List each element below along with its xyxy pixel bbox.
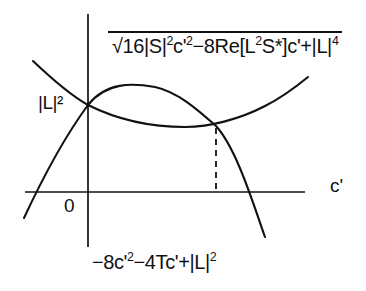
var-l: L	[245, 35, 256, 57]
x-axis-label: c'	[330, 176, 343, 195]
abs-l: |L|	[312, 35, 332, 57]
minus-four-t: −4T	[134, 251, 166, 273]
minus-eight: −8	[193, 35, 215, 57]
var-c-prime-1: c'	[114, 251, 127, 273]
plus-sign: +	[300, 35, 311, 57]
exponent-4: 4	[332, 34, 339, 48]
hyperbola-curve	[33, 61, 308, 127]
var-c-prime-1: c'	[173, 35, 186, 57]
radical-sign: √	[112, 35, 123, 57]
plus-sign: +	[178, 251, 189, 273]
abs-s: |S|	[144, 35, 167, 57]
var-s-star: S*	[262, 35, 282, 57]
var-c-prime-2: c'	[287, 35, 300, 57]
lower-curve-expression: −8c'2−4Tc'+|L|2	[92, 252, 216, 272]
origin-label: 0	[64, 196, 75, 215]
exponent-2b: 2	[210, 250, 217, 264]
y-intercept-label: |L|²	[38, 93, 63, 112]
upper-curve-expression: √16|S|2c'2−8Re[L2S*]c'+|L|4	[112, 36, 338, 56]
coefficient-16: 16	[123, 35, 144, 57]
minus-eight: −8	[92, 251, 114, 273]
var-c-prime-2: c'	[165, 251, 178, 273]
re-operator: Re[	[215, 35, 245, 57]
abs-l: |L|	[189, 251, 209, 273]
